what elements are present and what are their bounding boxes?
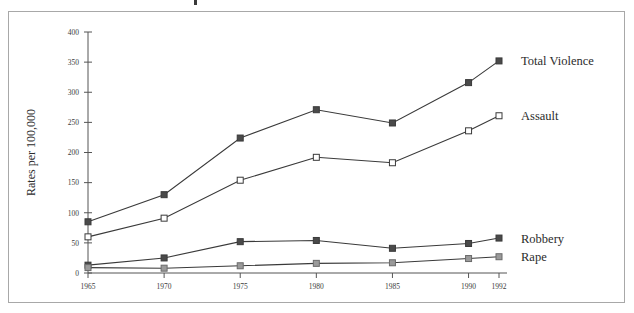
data-point-rape-1975 <box>237 263 243 269</box>
y-tick-label: 200 <box>68 148 80 157</box>
data-point-total-violence-1965 <box>85 219 91 225</box>
data-point-assault-1965 <box>85 234 91 240</box>
y-tick-label: 250 <box>68 118 80 127</box>
y-axis-title: Rates per 100,000 <box>24 109 38 196</box>
y-tick-label: 50 <box>72 239 80 248</box>
data-point-total-violence-1992 <box>496 58 502 64</box>
x-tick-label: 1992 <box>492 282 507 291</box>
x-tick-label: 1990 <box>461 282 476 291</box>
data-point-robbery-1970 <box>161 255 167 261</box>
data-point-assault-1975 <box>237 177 243 183</box>
series-line-total-violence <box>88 61 499 222</box>
x-tick-label: 1965 <box>81 282 96 291</box>
data-point-assault-1970 <box>161 215 167 221</box>
data-point-robbery-1990 <box>466 240 472 246</box>
title-descender-artifact <box>194 0 197 5</box>
data-point-robbery-1992 <box>496 235 502 241</box>
data-point-rape-1992 <box>496 254 502 260</box>
y-tick-label: 150 <box>68 178 80 187</box>
series-label-total-violence: Total Violence <box>521 54 594 68</box>
data-point-rape-1965 <box>85 265 91 271</box>
data-point-rape-1985 <box>389 260 395 266</box>
data-point-total-violence-1980 <box>313 107 319 113</box>
chart-screenshot: 0501001502002503003504001965197019751980… <box>0 0 634 313</box>
y-tick-label: 100 <box>68 209 80 218</box>
x-tick-label: 1975 <box>233 282 248 291</box>
data-point-total-violence-1990 <box>466 80 472 86</box>
x-tick-label: 1970 <box>157 282 172 291</box>
data-point-assault-1980 <box>313 154 319 160</box>
data-point-rape-1980 <box>313 260 319 266</box>
data-point-robbery-1985 <box>389 245 395 251</box>
series-line-robbery <box>88 238 499 265</box>
data-point-robbery-1975 <box>237 239 243 245</box>
figure-frame: 0501001502002503003504001965197019751980… <box>8 11 625 303</box>
data-point-robbery-1980 <box>313 237 319 243</box>
y-tick-label: 350 <box>68 58 80 67</box>
data-point-total-violence-1975 <box>237 135 243 141</box>
data-point-assault-1990 <box>466 128 472 134</box>
x-tick-label: 1985 <box>385 282 400 291</box>
data-point-rape-1970 <box>161 265 167 271</box>
data-point-assault-1985 <box>389 160 395 166</box>
y-tick-label: 300 <box>68 88 80 97</box>
data-point-assault-1992 <box>496 113 502 119</box>
series-label-rape: Rape <box>521 250 547 264</box>
y-tick-label: 0 <box>75 269 79 278</box>
data-point-total-violence-1970 <box>161 192 167 198</box>
line-chart: 0501001502002503003504001965197019751980… <box>9 12 624 302</box>
series-line-assault <box>88 116 499 237</box>
x-tick-label: 1980 <box>309 282 324 291</box>
y-tick-label: 400 <box>68 28 80 37</box>
series-label-robbery: Robbery <box>521 232 565 246</box>
data-point-total-violence-1985 <box>389 120 395 126</box>
series-label-assault: Assault <box>521 109 559 123</box>
series-line-rape <box>88 257 499 268</box>
data-point-rape-1990 <box>466 256 472 262</box>
